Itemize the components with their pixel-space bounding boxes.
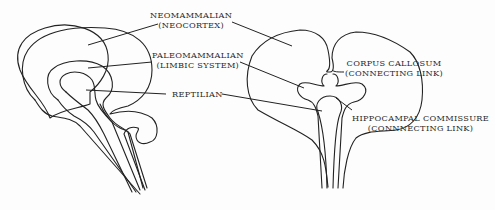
label-hippocampal-commissure-title: HIPPOCAMPAL COMMISSURE [352,113,489,123]
label-neomammalian-title: NEOMAMMALIAN [150,10,232,20]
coronal-brain [247,30,422,188]
label-reptilian: REPTILIAN [172,89,223,99]
triune-brain-diagram: NEOMAMMALIAN (NEOCORTEX) PALEOMAMMALIAN … [0,0,495,210]
label-neomammalian: NEOMAMMALIAN (NEOCORTEX) [150,10,232,30]
label-corpus-callosum: CORPUS CALLOSUM (CONNECTING LINK) [345,58,443,78]
sagittal-brain [18,25,157,194]
label-neomammalian-subtitle: (NEOCORTEX) [150,20,232,30]
brain-drawings [0,0,495,210]
label-paleomammalian: PALEOMAMMALIAN (LIMBIC SYSTEM) [152,50,244,70]
label-corpus-callosum-subtitle: (CONNECTING LINK) [345,68,443,78]
label-corpus-callosum-title: CORPUS CALLOSUM [345,58,443,68]
label-reptilian-title: REPTILIAN [172,89,223,99]
label-hippocampal-commissure: HIPPOCAMPAL COMMISSURE (CONNNECTING LINK… [352,113,489,133]
label-paleomammalian-subtitle: (LIMBIC SYSTEM) [152,60,244,70]
label-paleomammalian-title: PALEOMAMMALIAN [152,50,244,60]
label-hippocampal-commissure-subtitle: (CONNNECTING LINK) [352,123,489,133]
